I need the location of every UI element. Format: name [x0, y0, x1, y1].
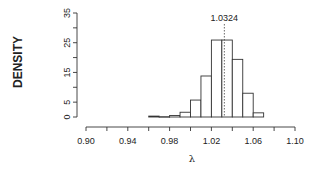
- histogram-bar: [170, 116, 180, 117]
- x-tick-label: 1.06: [244, 136, 262, 146]
- histogram-bar: [222, 40, 232, 117]
- histogram-bars: [149, 40, 264, 117]
- x-tick-label: 0.90: [77, 136, 95, 146]
- y-tick-label: 35: [62, 8, 72, 18]
- x-axis-label: λ: [189, 153, 196, 164]
- reference-line-label: 1.0324: [211, 13, 239, 23]
- histogram-bar: [243, 93, 253, 117]
- y-axis-label: DENSITY: [11, 36, 25, 88]
- y-axis: 05152535: [62, 8, 77, 120]
- histogram-bar: [191, 100, 201, 117]
- x-tick-label: 1.02: [203, 136, 221, 146]
- x-tick-label: 0.98: [161, 136, 179, 146]
- histogram-bar: [159, 117, 169, 118]
- histogram-bar: [201, 76, 211, 117]
- y-tick-label: 15: [62, 67, 72, 77]
- x-axis: 0.900.940.981.021.061.10: [77, 127, 304, 146]
- x-tick-label: 1.10: [286, 136, 304, 146]
- histogram-bar: [149, 116, 159, 117]
- histogram-bar: [232, 59, 242, 117]
- y-tick-label: 25: [62, 38, 72, 48]
- histogram-bar: [180, 112, 190, 117]
- density-histogram-chart: 05152535 0.900.940.981.021.061.10 1.0324…: [0, 0, 313, 172]
- y-tick-label: 5: [62, 100, 72, 105]
- histogram-bar: [253, 113, 263, 117]
- y-tick-label: 0: [62, 114, 72, 119]
- histogram-bar: [211, 40, 221, 117]
- x-tick-label: 0.94: [119, 136, 137, 146]
